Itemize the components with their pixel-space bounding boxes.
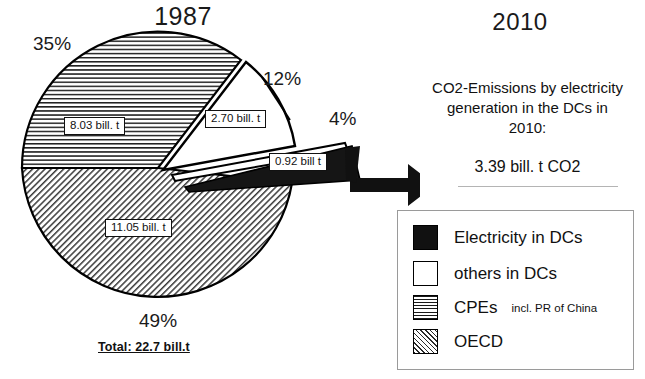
figure-canvas: 1987 2010 8. — [0, 0, 645, 379]
legend-note-cpes: incl. PR of China — [511, 302, 597, 314]
legend-label-electricity-in-dcs: Electricity in DCs — [454, 228, 582, 248]
callout-electricity-value: 0.92 bill t — [269, 153, 327, 171]
projection-value: 3.39 bill. t CO2 — [430, 158, 625, 176]
pie-chart-1987 — [0, 20, 420, 320]
callout-cpes-value: 8.03 bill. t — [64, 117, 125, 135]
legend-label-others-in-dcs: others in DCs — [454, 264, 557, 284]
legend-box: Electricity in DCs others in DCs CPEs in… — [397, 210, 634, 370]
percent-label-cpes: 35% — [33, 33, 71, 55]
projection-arrow — [345, 146, 420, 206]
legend-item-electricity-in-dcs: Electricity in DCs — [413, 225, 582, 250]
right-panel-title: 2010 — [455, 8, 585, 36]
total-label: Total: 22.7 bill.t — [98, 340, 190, 354]
white-square-swatch-icon — [413, 261, 438, 286]
percent-label-oecd: 49% — [139, 310, 177, 332]
callout-others-value: 2.70 bill. t — [205, 110, 266, 128]
diagonal-hatch-square-swatch-icon — [413, 329, 438, 354]
percent-label-electricity: 4% — [329, 108, 356, 130]
projection-description: CO2-Emissions by electricity generation … — [430, 78, 625, 138]
legend-label-oecd: OECD — [454, 332, 503, 352]
percent-label-others: 12% — [263, 68, 301, 90]
projection-rule — [458, 186, 618, 187]
horizontal-lines-square-swatch-icon — [413, 295, 438, 320]
callout-oecd-value: 11.05 bill. t — [105, 219, 172, 237]
legend-item-oecd: OECD — [413, 329, 503, 354]
black-square-swatch-icon — [413, 225, 438, 250]
legend-item-others-in-dcs: others in DCs — [413, 261, 557, 286]
legend-item-cpes: CPEs incl. PR of China — [413, 295, 597, 320]
legend-label-cpes: CPEs — [454, 298, 497, 318]
